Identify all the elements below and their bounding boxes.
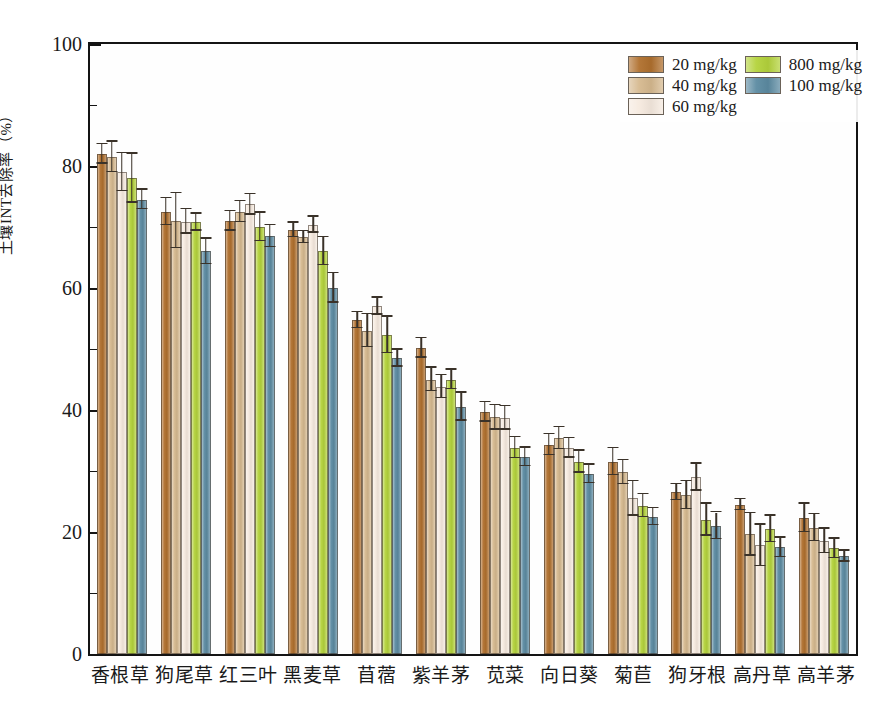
error-bar-cap-bottom <box>362 346 373 348</box>
bar-slot <box>137 44 147 654</box>
bar-group <box>792 44 856 654</box>
bar[interactable] <box>500 418 510 654</box>
error-bar-line <box>696 464 698 491</box>
error-bar-cap-bottom <box>160 224 171 226</box>
bar-slot <box>799 44 809 654</box>
bar[interactable] <box>225 221 235 654</box>
bar[interactable] <box>618 472 628 654</box>
bar[interactable] <box>735 505 745 654</box>
error-bar-cap-top <box>509 436 520 438</box>
bar[interactable] <box>574 462 584 654</box>
bar-group <box>345 44 409 654</box>
bar-slot <box>500 44 510 654</box>
bar[interactable] <box>352 320 362 654</box>
error-bar-cap-top <box>553 426 564 428</box>
error-bar-line <box>420 338 422 358</box>
bar[interactable] <box>446 380 456 655</box>
error-bar-cap-top <box>190 212 201 214</box>
bar-slot <box>308 44 318 654</box>
bar[interactable] <box>127 178 137 654</box>
bar[interactable] <box>137 200 147 654</box>
bar[interactable] <box>161 212 171 654</box>
bar-slot <box>392 44 402 654</box>
error-bar-line <box>101 144 103 164</box>
error-bar-line <box>121 153 123 191</box>
error-bar-line <box>333 273 335 302</box>
bar[interactable] <box>638 506 648 654</box>
error-bar-cap-top <box>829 537 840 539</box>
error-bar-cap-top <box>224 210 235 212</box>
bar[interactable] <box>671 492 681 654</box>
legend-label: 40 mg/kg <box>672 77 737 95</box>
bar[interactable] <box>171 221 181 654</box>
bar[interactable] <box>191 222 201 654</box>
error-bar-cap-bottom <box>671 499 682 501</box>
bar[interactable] <box>510 448 520 654</box>
error-bar-cap-bottom <box>711 538 722 540</box>
error-bar-cap-bottom <box>499 428 510 430</box>
bar-groups <box>90 44 856 654</box>
bar[interactable] <box>328 288 338 654</box>
bar[interactable] <box>201 251 211 654</box>
bar[interactable] <box>382 335 392 654</box>
bar[interactable] <box>564 448 574 654</box>
bar[interactable] <box>97 154 107 654</box>
bar[interactable] <box>829 548 839 654</box>
bar[interactable] <box>362 331 372 654</box>
bar[interactable] <box>426 380 436 655</box>
bar[interactable] <box>608 462 618 654</box>
bar-group <box>601 44 665 654</box>
bar[interactable] <box>490 417 500 654</box>
bar[interactable] <box>701 520 711 654</box>
bar[interactable] <box>255 227 265 654</box>
error-bar-cap-top <box>264 224 275 226</box>
bar[interactable] <box>298 237 308 654</box>
bar[interactable] <box>765 529 775 654</box>
error-bar-cap-top <box>126 152 137 154</box>
bar[interactable] <box>520 457 530 654</box>
bar[interactable] <box>392 358 402 654</box>
bar[interactable] <box>544 445 554 654</box>
error-bar-cap-bottom <box>116 190 127 192</box>
error-bar-cap-top <box>839 549 850 551</box>
bar[interactable] <box>235 212 245 654</box>
bar[interactable] <box>775 547 785 654</box>
bar[interactable] <box>809 528 819 654</box>
bar[interactable] <box>681 495 691 654</box>
error-bar-line <box>249 194 251 215</box>
bar[interactable] <box>554 438 564 654</box>
bar[interactable] <box>318 251 328 654</box>
error-bar-cap-top <box>436 374 447 376</box>
bar[interactable] <box>181 222 191 654</box>
bar[interactable] <box>288 230 298 654</box>
bar[interactable] <box>480 412 490 654</box>
bar[interactable] <box>711 526 721 654</box>
bar[interactable] <box>245 204 255 654</box>
error-bar-cap-bottom <box>352 327 363 329</box>
bar[interactable] <box>584 474 594 654</box>
bar-group <box>728 44 792 654</box>
error-bar-cap-top <box>446 368 457 370</box>
bar-slot <box>691 44 701 654</box>
bar[interactable] <box>628 498 638 654</box>
error-bar-cap-top <box>775 536 786 538</box>
bar[interactable] <box>107 157 117 654</box>
bar[interactable] <box>648 517 658 654</box>
bar[interactable] <box>799 518 809 654</box>
bar[interactable] <box>839 556 849 654</box>
error-bar-cap-top <box>372 296 383 298</box>
bar[interactable] <box>819 541 829 654</box>
error-bar-cap-bottom <box>755 565 766 567</box>
bar[interactable] <box>436 387 446 654</box>
bar[interactable] <box>416 348 426 654</box>
bar[interactable] <box>117 172 127 654</box>
bar-slot <box>181 44 191 654</box>
error-bar-line <box>376 298 378 315</box>
bar[interactable] <box>691 477 701 654</box>
bar[interactable] <box>265 236 275 654</box>
error-bar-line <box>686 481 688 509</box>
bar[interactable] <box>372 306 382 654</box>
bar[interactable] <box>456 407 466 654</box>
y-tick-label: 80 <box>36 156 82 176</box>
bar[interactable] <box>308 225 318 654</box>
